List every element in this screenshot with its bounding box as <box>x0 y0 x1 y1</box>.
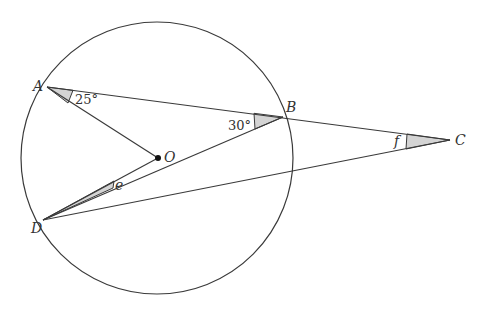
label-A: A <box>31 78 43 94</box>
label-C: C <box>455 132 466 148</box>
line-DC <box>43 140 450 220</box>
label-D: D <box>30 220 42 236</box>
angle-OAB-label: 25° <box>75 92 98 107</box>
line-DO <box>43 158 158 220</box>
angle-BCD-label: f <box>393 133 402 149</box>
line-AO <box>47 87 158 158</box>
label-B: B <box>285 99 296 115</box>
angle-ODB-label: e <box>115 177 123 193</box>
geometry-diagram: A B C D O 25° 30° e f <box>0 0 483 315</box>
label-O: O <box>164 149 176 165</box>
angle-ABD-label: 30° <box>228 118 251 133</box>
center-point <box>155 155 161 161</box>
